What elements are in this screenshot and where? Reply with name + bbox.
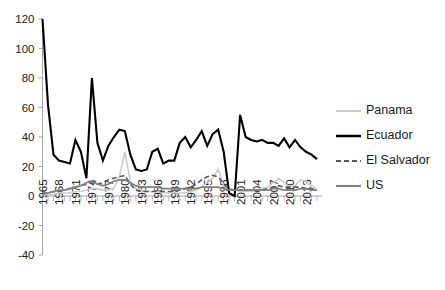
- x-tick-label: 2013: [301, 179, 313, 205]
- legend-label-ecuador: Ecuador: [366, 128, 413, 142]
- x-axis: [43, 196, 323, 201]
- x-tick-label: 1965: [37, 179, 49, 205]
- series-line-ecuador: [43, 19, 318, 196]
- chart-legend: PanamaEcuadorEl SalvadorUS: [336, 103, 430, 192]
- y-tick-label: 20: [22, 161, 35, 173]
- y-tick-label: 80: [22, 72, 35, 84]
- y-tick-label: 0: [28, 190, 34, 202]
- legend-label-el-salvador: El Salvador: [366, 153, 430, 167]
- y-tick-label: 100: [15, 43, 34, 55]
- data-series-group: [43, 19, 318, 196]
- y-tick-label: -40: [18, 249, 35, 261]
- chart-container: 120100806040200-20-40 196519681971197419…: [0, 0, 445, 290]
- legend-label-us: US: [366, 178, 383, 192]
- y-tick-label: 60: [22, 102, 35, 114]
- y-tick-label: 120: [15, 13, 34, 25]
- y-axis-ticks: 120100806040200-20-40: [15, 13, 42, 261]
- legend-label-panama: Panama: [366, 103, 413, 117]
- line-chart: 120100806040200-20-40 196519681971197419…: [0, 0, 445, 290]
- y-tick-label: -20: [18, 220, 35, 232]
- y-tick-label: 40: [22, 131, 35, 143]
